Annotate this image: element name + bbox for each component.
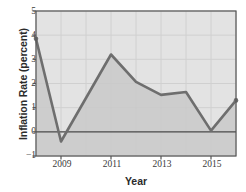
plot-area [0, 0, 246, 192]
inflation-rate-chart: Inflation Rate (percent) 5 4 3 2 1 0 −1 … [0, 0, 246, 192]
